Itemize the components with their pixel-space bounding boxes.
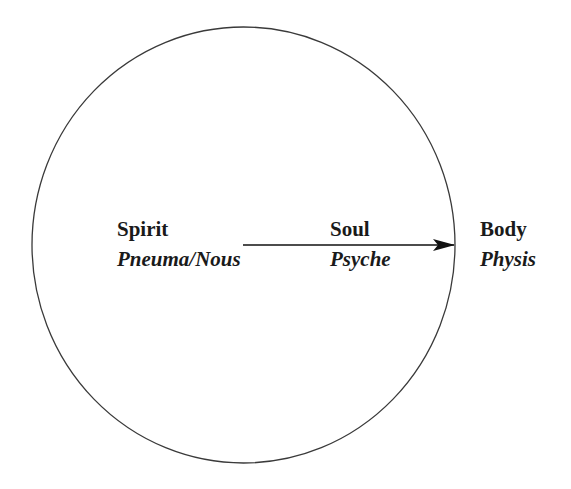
soul-greek-term: Psyche bbox=[330, 244, 391, 274]
spirit-label: Spirit Pneuma/Nous bbox=[117, 214, 241, 274]
body-title: Body bbox=[480, 214, 536, 244]
soul-title: Soul bbox=[330, 214, 391, 244]
body-label: Body Physis bbox=[480, 214, 536, 274]
soul-label: Soul Psyche bbox=[330, 214, 391, 274]
spirit-title: Spirit bbox=[117, 214, 241, 244]
body-greek-term: Physis bbox=[480, 244, 536, 274]
spirit-soul-body-diagram: Spirit Pneuma/Nous Soul Psyche Body Phys… bbox=[0, 0, 571, 489]
spirit-greek-term: Pneuma/Nous bbox=[117, 244, 241, 274]
